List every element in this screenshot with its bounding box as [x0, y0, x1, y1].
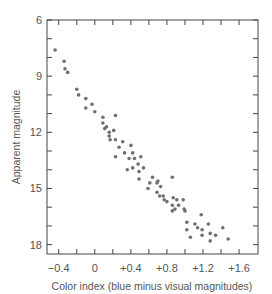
- data-point: [101, 121, 105, 125]
- y-tick-label: 6: [36, 14, 42, 26]
- x-axis-ticks: [59, 20, 239, 254]
- y-axis-label: Apparent magnitude: [10, 90, 22, 185]
- y-tick-label: 9: [36, 70, 42, 82]
- x-tick-label: +1.2: [192, 262, 214, 274]
- data-point: [53, 48, 57, 52]
- data-point: [171, 204, 175, 208]
- data-point: [114, 114, 118, 118]
- data-point: [126, 168, 130, 172]
- plot-frame: [47, 20, 258, 254]
- data-point: [117, 146, 121, 150]
- data-point: [155, 190, 159, 194]
- data-point: [131, 151, 135, 155]
- data-point: [107, 131, 111, 135]
- data-point: [103, 127, 107, 131]
- data-point: [208, 232, 212, 236]
- data-point: [107, 134, 111, 138]
- data-point: [159, 185, 163, 189]
- data-point: [196, 226, 200, 230]
- data-point: [77, 93, 81, 97]
- data-point: [136, 162, 140, 166]
- data-point: [62, 59, 66, 63]
- data-point: [200, 228, 204, 232]
- data-point: [171, 209, 175, 213]
- data-point: [181, 198, 185, 202]
- data-point: [114, 138, 118, 142]
- data-point: [207, 222, 211, 226]
- axes-box: [47, 20, 258, 254]
- data-point: [63, 67, 67, 71]
- data-point: [75, 88, 79, 92]
- data-point: [221, 226, 225, 230]
- data-point: [226, 237, 230, 241]
- data-point: [139, 155, 143, 159]
- x-axis-tick-labels: −0.4 0 +0.4 +0.8 +1.2 +1.6: [48, 262, 250, 274]
- data-point: [123, 151, 127, 155]
- data-point: [84, 106, 88, 110]
- data-point: [175, 198, 179, 202]
- scatter-chart: −0.4 0 +0.4 +0.8 +1.2 +1.6 6 9 12 15 18 …: [0, 0, 272, 294]
- data-point: [214, 234, 218, 238]
- y-axis-tick-labels: 6 9 12 15 18: [30, 14, 42, 251]
- data-point: [171, 196, 175, 200]
- y-tick-label: 18: [30, 239, 42, 251]
- data-point: [199, 213, 203, 217]
- data-point: [189, 235, 193, 239]
- data-point: [133, 157, 137, 161]
- data-point: [156, 179, 160, 183]
- data-point: [90, 102, 94, 106]
- data-point: [165, 200, 169, 204]
- data-point: [131, 166, 135, 170]
- data-point: [185, 228, 189, 232]
- data-point: [129, 144, 133, 148]
- data-point: [171, 175, 175, 179]
- data-point: [114, 155, 118, 159]
- data-point: [137, 177, 141, 181]
- y-tick-label: 12: [30, 126, 42, 138]
- data-point: [66, 71, 70, 75]
- data-point: [148, 181, 152, 185]
- data-point: [185, 220, 189, 224]
- data-point: [127, 157, 131, 161]
- data-point: [151, 175, 155, 179]
- data-point: [112, 129, 116, 133]
- y-tick-label: 15: [30, 182, 42, 194]
- data-point: [121, 140, 125, 144]
- x-tick-label: −0.4: [48, 262, 70, 274]
- data-point: [137, 170, 141, 174]
- data-point: [193, 222, 197, 226]
- y-axis-ticks: [47, 20, 258, 245]
- x-axis-label: Color index (blue minus visual magnitude…: [52, 280, 253, 292]
- data-point: [177, 204, 181, 208]
- data-point: [208, 239, 212, 243]
- data-point: [162, 194, 166, 198]
- data-point: [200, 234, 204, 238]
- data-points: [53, 48, 230, 243]
- data-point: [84, 97, 88, 101]
- data-point: [108, 138, 112, 142]
- x-tick-label: +1.6: [228, 262, 250, 274]
- x-tick-label: 0: [92, 262, 98, 274]
- x-tick-label: +0.8: [156, 262, 178, 274]
- data-point: [93, 110, 97, 114]
- data-point: [183, 209, 187, 213]
- data-point: [142, 166, 146, 170]
- data-point: [101, 116, 105, 120]
- data-point: [158, 194, 162, 198]
- data-point: [146, 187, 150, 191]
- x-tick-label: +0.4: [120, 262, 142, 274]
